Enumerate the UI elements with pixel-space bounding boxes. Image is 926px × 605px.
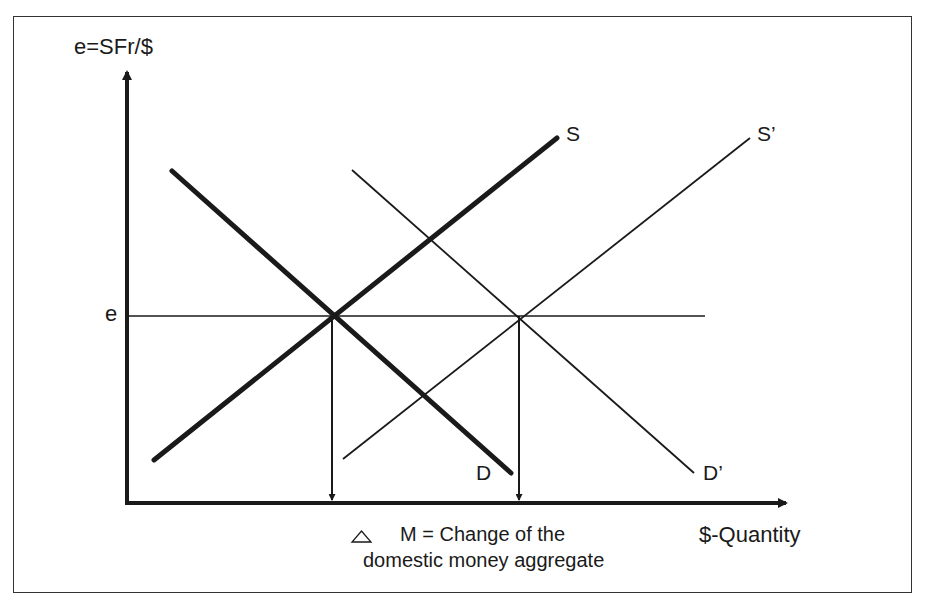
delta-triangle-icon (352, 531, 371, 542)
demand-curve-d-prime (352, 170, 694, 473)
x-axis-label: $-Quantity (699, 524, 801, 546)
y-axis-label: e=SFr/$ (74, 36, 153, 58)
money-aggregate-note-line2: domestic money aggregate (363, 547, 604, 573)
curve-label-s-prime: S’ (757, 123, 776, 144)
curve-label-d: D (476, 462, 491, 483)
money-aggregate-note-line1: M = Change of the (400, 521, 565, 547)
curve-label-d-prime: D’ (703, 462, 723, 483)
diagram-canvas (0, 0, 926, 605)
equilibrium-rate-label: e (105, 303, 117, 325)
curve-label-s: S (566, 123, 580, 144)
supply-curve-s-prime (343, 138, 750, 459)
